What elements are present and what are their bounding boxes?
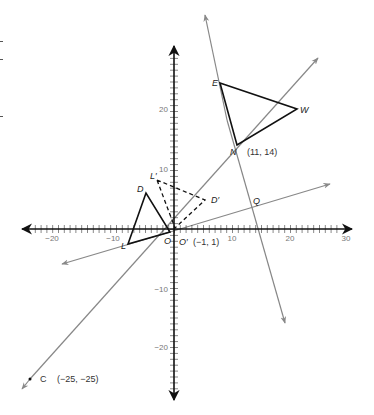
edge-mark bbox=[0, 59, 3, 60]
x-tick-label: 20 bbox=[286, 234, 295, 243]
y-tick-label: −10 bbox=[154, 285, 168, 294]
triangle-dlo-prime bbox=[157, 180, 205, 228]
y-tick-label: 10 bbox=[159, 165, 168, 174]
label-l-prime: L′ bbox=[150, 171, 157, 181]
coords-c: (−25, −25) bbox=[57, 374, 99, 384]
label-c: C bbox=[40, 374, 47, 384]
y-tick-label: 20 bbox=[159, 105, 168, 114]
line-e-n-q bbox=[205, 15, 227, 120]
x-tick-label: −10 bbox=[106, 234, 120, 243]
edge-mark bbox=[0, 116, 3, 117]
x-tick-label: −20 bbox=[45, 234, 59, 243]
label-o: O bbox=[164, 236, 171, 246]
point-c bbox=[29, 378, 32, 381]
coords-n: (11, 14) bbox=[247, 147, 277, 157]
label-d: D bbox=[137, 184, 144, 194]
x-tick-label: 10 bbox=[228, 234, 237, 243]
ray-c-tail bbox=[22, 379, 30, 389]
diagram-canvas: −20 −10 10 20 30 20 10 −10 −20 E W N (11… bbox=[0, 0, 374, 415]
label-o-prime: O′ bbox=[179, 237, 188, 247]
y-tick-label: −20 bbox=[154, 343, 168, 352]
axes bbox=[22, 46, 352, 400]
coords-o-prime: (−1, 1) bbox=[193, 237, 219, 247]
label-l: L bbox=[121, 241, 126, 251]
edge-mark bbox=[0, 41, 3, 42]
x-tick-label: 30 bbox=[342, 234, 351, 243]
label-d-prime: D′ bbox=[211, 195, 219, 205]
label-q: Q bbox=[253, 196, 260, 206]
label-w: W bbox=[300, 105, 310, 115]
coordinate-diagram: −20 −10 10 20 30 20 10 −10 −20 E W N (11… bbox=[0, 0, 374, 415]
label-n: N bbox=[230, 147, 237, 157]
label-e: E bbox=[212, 78, 219, 88]
